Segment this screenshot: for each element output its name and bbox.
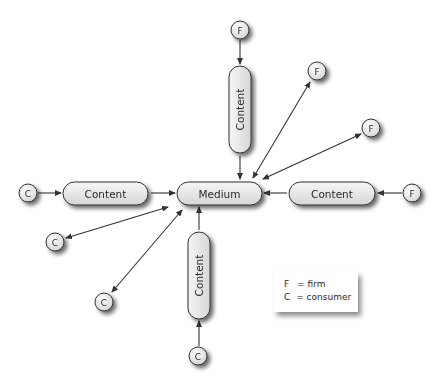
firm-right-label: F	[409, 189, 414, 199]
legend-equals: =	[296, 292, 304, 302]
consumer-node-lower-left-2: C	[95, 293, 113, 311]
legend-key: F	[284, 279, 289, 289]
firm-node-right: F	[403, 184, 421, 202]
legend-equals: =	[297, 279, 305, 289]
arrow-medium-consumer-lower-1	[66, 207, 168, 238]
consumer-node-left: C	[19, 184, 37, 202]
firm-top-label: F	[237, 26, 242, 36]
legend-item-consumer: C = consumer	[284, 291, 358, 304]
content-node-bottom: Content	[188, 232, 210, 319]
firm-upper-right-2-label: F	[368, 124, 373, 134]
arrow-medium-consumer-lower-2	[112, 210, 182, 292]
firm-node-upper-right-2: F	[362, 119, 380, 137]
consumer-lower-left-1-label: C	[52, 238, 58, 248]
firm-node-upper-right-1: F	[308, 62, 326, 80]
media-diagram: Medium Content Content Content Content F…	[0, 0, 442, 390]
legend-value: consumer	[307, 292, 352, 302]
content-top-label: Content	[234, 89, 246, 131]
content-node-right: Content	[289, 182, 375, 205]
content-right-label: Content	[311, 188, 353, 200]
medium-label: Medium	[199, 188, 241, 200]
arrow-medium-firm-upper-2	[263, 134, 361, 179]
consumer-node-lower-left-1: C	[46, 233, 64, 251]
content-node-left: Content	[63, 182, 148, 205]
content-left-label: Content	[85, 188, 127, 200]
consumer-lower-left-2-label: C	[101, 298, 107, 308]
firm-upper-right-1-label: F	[314, 67, 319, 77]
consumer-left-label: C	[25, 189, 31, 199]
consumer-node-bottom: C	[189, 347, 207, 365]
legend-item-firm: F = firm	[284, 278, 358, 291]
legend-value: firm	[307, 279, 325, 289]
arrow-medium-firm-upper-1	[253, 82, 310, 178]
legend-box: F = firm C = consumer	[274, 272, 358, 312]
firm-node-top: F	[231, 21, 249, 39]
consumer-bottom-label: C	[195, 352, 201, 362]
legend-key: C	[284, 292, 290, 302]
medium-node: Medium	[177, 182, 262, 205]
content-node-top: Content	[229, 66, 251, 153]
content-bottom-label: Content	[193, 255, 205, 297]
